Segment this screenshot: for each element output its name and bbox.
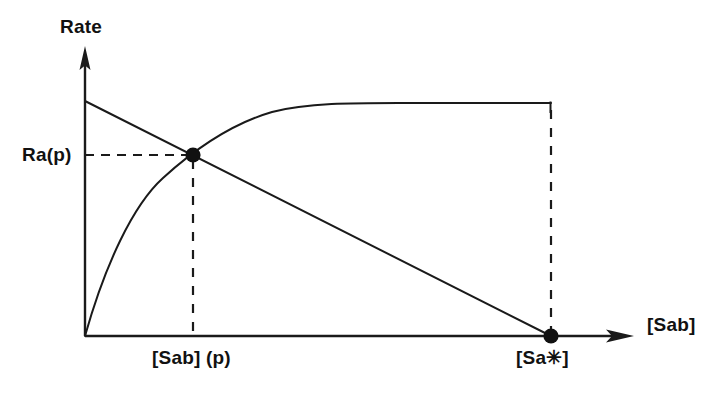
intersection-point-marker: [185, 147, 200, 162]
y-axis-tick-label-ra-p: Ra(p): [22, 145, 72, 164]
saturation-endpoint-marker: [543, 328, 558, 343]
y-axis-title: Rate: [60, 17, 102, 36]
kinetics-figure: Rate Ra(p) [Sab] (p) [Sa✳] [Sab]: [0, 0, 719, 396]
y-axis: [80, 46, 91, 336]
x-axis-tick-label-sab-p: [Sab] (p): [152, 348, 231, 367]
declining-rate-line: [85, 101, 551, 336]
x-axis-tick-label-sa-star: [Sa✳]: [516, 348, 569, 367]
x-axis-title: [Sab]: [647, 315, 696, 334]
plot-canvas: [0, 0, 719, 396]
